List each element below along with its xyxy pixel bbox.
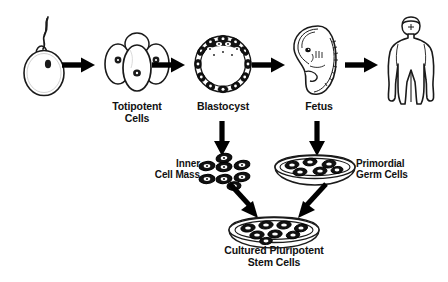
stage-label-totipotent-cells: Totipotent Cells xyxy=(88,101,186,125)
stage-blastocyst xyxy=(186,24,260,98)
diagram-canvas: Totipotent Cells xyxy=(0,0,448,282)
derivation-label-primordial-germ-cells: Primordial Germ Cells xyxy=(356,158,448,180)
derivation-label-inner-cell-mass: Inner Cell Mass xyxy=(128,158,200,180)
outcome-label-cultured-pluripotent-stem-cells: Cultured Pluripotent Stem Cells xyxy=(186,245,362,269)
arrow-blastocyst-to-fetus xyxy=(252,55,286,75)
stage-label-fetus: Fetus xyxy=(288,101,350,113)
arrow-totipotent-to-blastocyst xyxy=(152,55,186,75)
blastocyst-icon xyxy=(186,24,260,98)
stage-fetus xyxy=(288,20,348,100)
arrow-egg-to-totipotent xyxy=(62,55,96,75)
stage-adult xyxy=(382,14,440,106)
fetus-icon xyxy=(288,20,348,100)
stage-label-blastocyst: Blastocyst xyxy=(185,101,261,113)
arrow-fetus-to-adult xyxy=(345,55,379,75)
arrow-fetus-to-pgc xyxy=(306,121,328,157)
adult-human-icon xyxy=(382,14,440,106)
